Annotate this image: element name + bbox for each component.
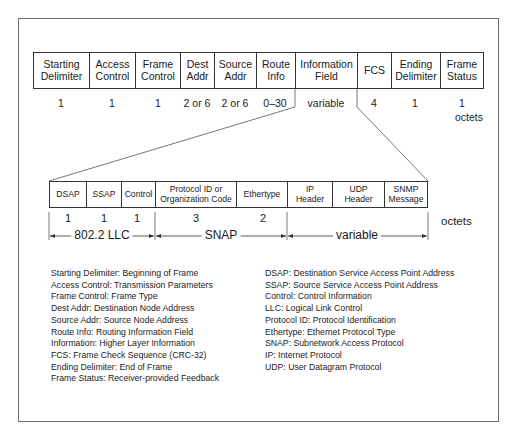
legend-item: LLC: Logical Link Control xyxy=(265,303,454,315)
legend-item: SSAP: Source Service Access Point Addres… xyxy=(265,280,454,292)
size-frame-control: 1 xyxy=(155,97,161,109)
legend-item: Protocol ID: Protocol Identification xyxy=(265,315,454,327)
field-dest-addr: DestAddr xyxy=(180,52,214,89)
legend-item: Starting Delimiter: Beginning of Frame xyxy=(51,268,219,280)
legend-item: Dest Addr: Destination Node Address xyxy=(51,303,219,315)
field-frame-control: FrameControl xyxy=(135,52,180,89)
size-source-addr: 2 or 6 xyxy=(222,97,249,109)
size-dsap: 1 xyxy=(65,212,71,224)
legend-item: UDP: User Datagram Protocol xyxy=(265,362,454,374)
legend-item: SNAP: Subnetwork Access Protocol xyxy=(265,338,454,350)
field-frame-status: FrameStatus xyxy=(440,52,484,89)
top-unit-label: octets xyxy=(455,111,483,123)
size-starting-delimiter: 1 xyxy=(58,97,64,109)
legend-right: DSAP: Destination Service Access Point A… xyxy=(265,268,454,373)
legend-item: Access Control: Transmission Parameters xyxy=(51,280,219,292)
field-protocol-id: Protocol ID orOrganization Code xyxy=(155,181,236,208)
span-802-2-llc: 802.2 LLC xyxy=(71,228,132,242)
legend-item: Information: Higher Layer Information xyxy=(51,338,219,350)
legend-item: FCS: Frame Check Sequence (CRC-32) xyxy=(51,350,219,362)
field-ip-header: IPHeader xyxy=(287,181,332,208)
field-fcs: FCS xyxy=(357,52,391,89)
size-ending-delimiter: 1 xyxy=(412,97,418,109)
field-route-info: RouteInfo xyxy=(256,52,295,89)
legend-item: IP: Internet Protocol xyxy=(265,350,454,362)
legend-item: DSAP: Destination Service Access Point A… xyxy=(265,268,454,280)
size-information: variable xyxy=(308,97,345,109)
span-snap: SNAP xyxy=(202,228,241,242)
legend-item: Frame Control: Frame Type xyxy=(51,291,219,303)
legend-item: Control: Control Information xyxy=(265,291,454,303)
legend-item: Source Addr: Source Node Address xyxy=(51,315,219,327)
size-dest-addr: 2 or 6 xyxy=(184,97,211,109)
size-protocol-id: 3 xyxy=(193,212,199,224)
legend-item: Ending Delimiter: End of Frame xyxy=(51,362,219,374)
size-control: 1 xyxy=(134,212,140,224)
span-variable: variable xyxy=(333,228,381,242)
size-frame-status: 1 xyxy=(459,97,465,109)
legend-item: Frame Status: Receiver-provided Feedback xyxy=(51,373,219,385)
field-udp-header: UDPHeader xyxy=(332,181,384,208)
field-ethertype: Ethertype xyxy=(236,181,287,208)
legend-item: Ethertype: Ethernet Protocol Type xyxy=(265,327,454,339)
field-dsap: DSAP xyxy=(49,181,86,208)
size-ssap: 1 xyxy=(101,212,107,224)
size-fcs: 4 xyxy=(371,97,377,109)
size-ethertype: 2 xyxy=(260,212,266,224)
size-route-info: 0–30 xyxy=(263,97,286,109)
field-ssap: SSAP xyxy=(86,181,121,208)
field-control: Control xyxy=(121,181,155,208)
field-starting-delimiter: StartingDelimiter xyxy=(33,52,89,89)
field-information: InformationField xyxy=(295,52,357,89)
legend-item: Route Info: Routing Information Field xyxy=(51,327,219,339)
field-source-addr: SourceAddr xyxy=(214,52,256,89)
field-snmp-message: SNMPMessage xyxy=(384,181,428,208)
field-access-control: AccessControl xyxy=(89,52,135,89)
size-access-control: 1 xyxy=(109,97,115,109)
lower-unit-label: octets xyxy=(441,215,472,227)
legend-left: Starting Delimiter: Beginning of Frame A… xyxy=(51,268,219,385)
field-ending-delimiter: EndingDelimiter xyxy=(391,52,440,89)
